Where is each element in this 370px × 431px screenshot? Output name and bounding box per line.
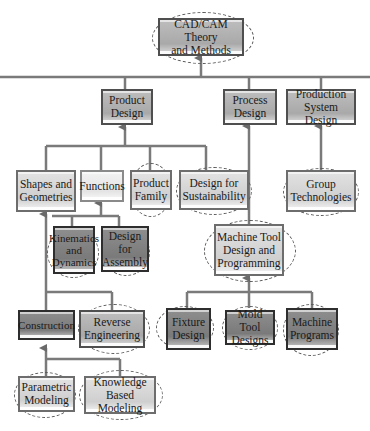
- node-mold-tool-designs[interactable]: Mold Tool Designs: [225, 310, 275, 345]
- node-design-for-sustainability[interactable]: Design for Sustainability: [179, 170, 249, 210]
- node-parametric-modeling[interactable]: Parametric Modeling: [18, 376, 75, 412]
- node-label: Parametric Modeling: [22, 381, 72, 407]
- node-label: Process Design: [232, 94, 267, 120]
- node-label: Kinematics and Dynamics: [49, 232, 99, 268]
- node-construction[interactable]: Construction: [18, 310, 75, 340]
- node-label: Product Design: [109, 94, 145, 120]
- node-label: CAD/CAM Theory and Methods: [160, 18, 242, 57]
- node-group-technologies[interactable]: Group Technologies: [286, 170, 356, 212]
- node-production-system-design[interactable]: Production System Design: [286, 89, 356, 125]
- node-machine-programs[interactable]: Machine Programs: [286, 308, 338, 350]
- node-knowledge-based-modeling[interactable]: Knowledge Based Modeling: [84, 376, 156, 414]
- node-label: Machine Tool Design and Programming: [217, 231, 281, 270]
- node-reverse-engineering[interactable]: Reverse Engineering: [79, 310, 145, 348]
- node-label: Group Technologies: [290, 178, 351, 204]
- node-product-family[interactable]: Product Family: [130, 170, 172, 210]
- node-design-for-assembly[interactable]: Design for Assembly: [101, 226, 149, 272]
- node-process-design[interactable]: Process Design: [223, 89, 277, 125]
- node-label: Construction: [18, 319, 75, 332]
- node-label: Functions: [79, 180, 124, 193]
- node-label: Design for Sustainability: [182, 177, 245, 203]
- node-label: Fixture Design: [172, 316, 205, 342]
- node-label: Production System Design: [288, 88, 354, 127]
- node-product-design[interactable]: Product Design: [101, 89, 153, 125]
- node-label: Machine Programs: [290, 316, 334, 342]
- node-label: Mold Tool Designs: [227, 308, 273, 347]
- node-machine-tool-design[interactable]: Machine Tool Design and Programming: [214, 224, 284, 276]
- node-label: Design for Assembly: [102, 230, 148, 269]
- node-fixture-design[interactable]: Fixture Design: [166, 308, 211, 350]
- cadcam-hierarchy-diagram: CAD/CAM Theory and Methods Product Desig…: [0, 0, 370, 431]
- node-label: Product Family: [133, 177, 169, 203]
- connectors: [0, 0, 370, 431]
- node-label: Shapes and Geometries: [19, 178, 72, 204]
- node-label: Reverse Engineering: [84, 316, 140, 342]
- node-label: Knowledge Based Modeling: [86, 376, 154, 415]
- node-kinematics-dynamics[interactable]: Kinematics and Dynamics: [53, 226, 95, 274]
- node-functions[interactable]: Functions: [80, 170, 124, 202]
- node-shapes-geometries[interactable]: Shapes and Geometries: [16, 170, 76, 212]
- node-root[interactable]: CAD/CAM Theory and Methods: [158, 18, 244, 56]
